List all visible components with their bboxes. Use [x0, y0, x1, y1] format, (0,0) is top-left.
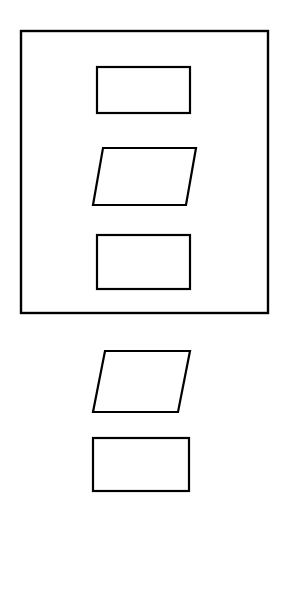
flowchart-diagram: 1 Design of control struc- tures and con…	[0, 0, 287, 615]
diagram-canvas: 1 Design of control struc- tures and con…	[0, 0, 287, 615]
node-control-design-shape[interactable]	[97, 235, 190, 289]
node-control-system-outline-shape[interactable]	[93, 351, 190, 412]
node-information-analysis-shape[interactable]: 1 Design of control struc- tures and con…	[93, 438, 189, 491]
node-basic-control-system-shape[interactable]	[93, 148, 196, 205]
group-1-frame	[21, 31, 268, 313]
node-control-analysis-shape[interactable]	[97, 67, 190, 113]
